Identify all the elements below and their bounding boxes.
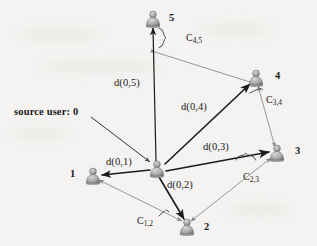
capacity-label-c45-base: C: [186, 32, 193, 43]
figure-canvas: 1 2 3 4 5 source user: 0 d(0,1) d(0,2) d…: [0, 0, 317, 246]
capacity-label-c45: C4,5: [186, 33, 202, 43]
edge-label-d05: d(0,5): [114, 78, 140, 89]
capacity-edge-4-5: [155, 52, 250, 82]
node-label-5: 5: [169, 13, 174, 24]
capacity-label-c34-base: C: [266, 94, 273, 105]
edge-label-d01: d(0,1): [106, 157, 132, 168]
capacity-label-c12-sub: 1,2: [144, 219, 153, 228]
paper-smudge: [40, 62, 160, 71]
broadcast-edge-0-5: [153, 28, 156, 161]
capacity-label-c34: C3,4: [266, 95, 282, 105]
node-label-4: 4: [275, 71, 280, 82]
user-bust-icon: [267, 144, 287, 162]
paper-smudge: [200, 25, 270, 34]
paper-smudge: [230, 205, 290, 214]
node-label-2: 2: [204, 222, 209, 233]
capacity-label-c23-base: C: [243, 171, 250, 182]
brace-c12: [159, 210, 169, 216]
node-label-1: 1: [70, 169, 75, 180]
brace-c34: [250, 88, 263, 93]
node-label-3: 3: [295, 146, 300, 157]
node-2[interactable]: [177, 218, 197, 236]
source-user-label: source user: 0: [14, 107, 78, 118]
node-4[interactable]: [246, 69, 266, 87]
capacity-label-c12-base: C: [137, 215, 144, 226]
node-3[interactable]: [267, 144, 287, 162]
user-bust-icon: [147, 160, 167, 178]
capacity-label-c23: C2,3: [243, 172, 259, 182]
edge-label-d03: d(0,3): [203, 142, 229, 153]
capacity-label-c34-sub: 3,4: [273, 98, 282, 107]
node-1[interactable]: [83, 167, 103, 185]
brace-c23: [236, 153, 256, 160]
brace-c45: [159, 28, 166, 48]
node-0-source[interactable]: [147, 160, 167, 178]
broadcast-edge-0-3: [166, 152, 269, 171]
capacity-edge-2-3: [191, 158, 271, 221]
capacity-label-c45-sub: 4,5: [193, 36, 202, 45]
capacity-label-c23-sub: 2,3: [250, 175, 259, 184]
user-bust-icon: [83, 167, 103, 185]
edge-label-d04: d(0,4): [181, 102, 207, 113]
node-5[interactable]: [143, 10, 163, 28]
user-bust-icon: [143, 10, 163, 28]
paper-smudge: [20, 30, 100, 40]
broadcast-edge-0-1: [102, 170, 150, 175]
capacity-label-c12: C1,2: [137, 216, 153, 226]
user-bust-icon: [177, 218, 197, 236]
paper-smudge: [10, 130, 70, 138]
edge-label-d02: d(0,2): [167, 180, 193, 191]
user-bust-icon: [246, 69, 266, 87]
graph-edges-layer: [0, 0, 317, 246]
